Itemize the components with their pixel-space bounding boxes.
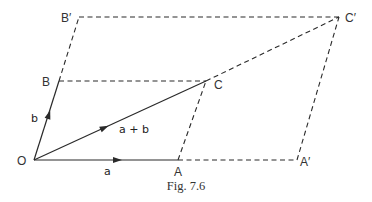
label-vector-a: a bbox=[104, 165, 111, 178]
line-C-Cprime bbox=[206, 17, 339, 81]
label-C-prime: C′ bbox=[345, 11, 357, 25]
figure-caption: Fig. 7.6 bbox=[167, 179, 206, 193]
line-Aprime-Cprime bbox=[297, 17, 339, 160]
solid-vectors bbox=[34, 81, 206, 160]
arrow-a-plus-b-icon bbox=[99, 123, 110, 132]
label-C: C bbox=[214, 78, 223, 92]
arrow-b-icon bbox=[45, 109, 53, 119]
vector-parallelogram-diagram: O A A′ B C B′ C′ a b a + b Fig. 7.6 bbox=[0, 0, 372, 202]
vector-labels: a b a + b bbox=[31, 112, 149, 178]
vector-a-plus-b-line bbox=[34, 81, 206, 160]
label-O: O bbox=[17, 154, 26, 168]
arrowheads bbox=[45, 109, 122, 163]
dashed-construction-lines bbox=[59, 17, 339, 160]
point-labels: O A A′ B C B′ C′ bbox=[17, 11, 357, 179]
label-A-prime: A′ bbox=[300, 155, 311, 169]
label-B: B bbox=[42, 75, 50, 89]
line-A-C bbox=[178, 81, 206, 160]
line-B-Bprime bbox=[59, 17, 79, 81]
label-A: A bbox=[174, 165, 182, 179]
arrow-a-icon bbox=[113, 157, 122, 163]
label-B-prime: B′ bbox=[61, 11, 72, 25]
label-vector-a-plus-b: a + b bbox=[119, 123, 149, 136]
label-vector-b: b bbox=[31, 112, 38, 125]
